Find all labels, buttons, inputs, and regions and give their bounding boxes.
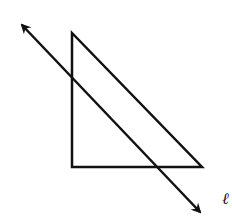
line-label: ℓ xyxy=(222,189,229,208)
line-l xyxy=(22,25,200,212)
geometry-diagram: ℓ xyxy=(0,0,232,216)
